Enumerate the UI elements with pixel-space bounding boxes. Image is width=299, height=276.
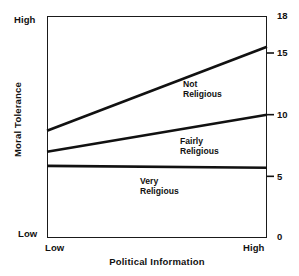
series-label-not-religious: Not Religious (183, 79, 222, 99)
series-label-very-religious-line1: Very (140, 176, 179, 186)
series-label-fairly-religious: Fairly Religious (180, 136, 219, 156)
series-line-not-religious (47, 47, 267, 131)
tick-label-5: 5 (277, 172, 282, 182)
series-label-fairly-religious-line1: Fairly (180, 136, 219, 146)
x-axis-title: Political Information (47, 256, 267, 267)
series-label-fairly-religious-line2: Religious (180, 146, 219, 156)
chart-lines-layer (0, 0, 299, 276)
series-label-very-religious: Very Religious (140, 176, 179, 196)
series-label-very-religious-line2: Religious (140, 186, 179, 196)
tick-label-0: 0 (277, 232, 282, 242)
tick-label-10: 10 (277, 110, 288, 120)
chart-figure: 18 15 10 5 0 High Low Low High Moral Tol… (0, 0, 299, 276)
y-axis-title: Moral Tolerance (12, 75, 23, 165)
x-axis-low-label: Low (45, 242, 64, 253)
y-axis-low-label: Low (18, 228, 37, 239)
series-label-not-religious-line1: Not (183, 79, 222, 89)
tick-label-18: 18 (277, 11, 288, 21)
tick-label-15: 15 (277, 48, 288, 58)
x-axis-high-label: High (243, 242, 265, 253)
series-line-fairly-religious (47, 115, 267, 152)
series-label-not-religious-line2: Religious (183, 89, 222, 99)
series-line-very-religious (47, 166, 267, 168)
y-axis-high-label: High (14, 14, 36, 25)
